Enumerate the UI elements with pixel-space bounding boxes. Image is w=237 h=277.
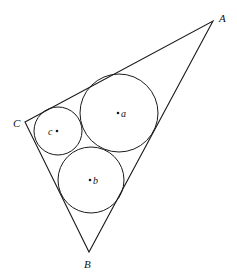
- triangle-abc: [25, 21, 213, 252]
- circle-label-b: b: [93, 175, 98, 186]
- center-dot-c: [56, 130, 59, 133]
- vertex-label-c: C: [13, 117, 21, 129]
- vertex-label-a: A: [218, 12, 226, 24]
- circle-label-a: a: [121, 108, 126, 119]
- vertex-label-b: B: [84, 258, 91, 270]
- malfatti-diagram: A B C a b c: [0, 0, 237, 277]
- center-dot-b: [89, 179, 92, 182]
- center-dot-a: [117, 112, 120, 115]
- circle-label-c: c: [48, 126, 53, 137]
